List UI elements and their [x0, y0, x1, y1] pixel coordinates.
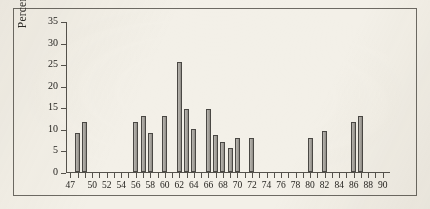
x-axis-tick-label: 64 [189, 180, 199, 190]
x-axis-tick-label: 66 [204, 180, 214, 190]
y-axis-tick-label: 10 [48, 123, 58, 134]
x-axis-tick [179, 173, 180, 178]
x-axis-tick [267, 173, 268, 178]
x-axis-tick-label: 86 [349, 180, 359, 190]
x-axis-tick [143, 173, 144, 178]
x-axis-tick-label: 68 [218, 180, 228, 190]
x-axis-tick [92, 173, 93, 178]
x-axis-tick [172, 173, 173, 178]
x-axis-tick [194, 173, 195, 178]
bar [162, 116, 167, 172]
y-axis-tick: 0 [61, 173, 66, 174]
y-axis-tick: 35 [61, 22, 66, 23]
x-axis-tick [85, 173, 86, 178]
x-axis-tick-label: 90 [378, 180, 388, 190]
x-axis-tick [354, 173, 355, 178]
x-axis-tick [288, 173, 289, 178]
x-axis-tick-label: 80 [305, 180, 315, 190]
y-axis-tick-label: 0 [53, 166, 58, 177]
y-axis-tick: 20 [61, 87, 66, 88]
figure-container: Percentage of policy issues 051015202530… [0, 0, 430, 209]
plot-area: 05101520253035 4750525456586062646668707… [66, 22, 390, 173]
x-axis-tick-label: 58 [146, 180, 156, 190]
x-axis-tick [78, 173, 79, 178]
bar [308, 138, 313, 173]
x-axis-tick [383, 173, 384, 178]
x-axis-tick [281, 173, 282, 178]
y-axis-tick: 25 [61, 65, 66, 66]
x-axis-tick-label: 60 [160, 180, 170, 190]
bar [141, 116, 146, 172]
x-axis-tick-label: 74 [262, 180, 272, 190]
x-axis-tick [121, 173, 122, 178]
bar [249, 138, 254, 173]
x-axis-tick [296, 173, 297, 178]
x-axis-tick [317, 173, 318, 178]
x-axis-tick-label: 54 [116, 180, 126, 190]
x-axis-tick-label: 78 [291, 180, 301, 190]
bar [358, 116, 363, 172]
y-axis-tick-label: 30 [48, 37, 58, 48]
x-axis-tick [99, 173, 100, 178]
x-axis-tick [303, 173, 304, 178]
x-axis-tick [237, 173, 238, 178]
x-axis-tick-label: 56 [131, 180, 141, 190]
x-axis-tick [230, 173, 231, 178]
y-axis-tick: 5 [61, 151, 66, 152]
x-axis-tick-label: 82 [320, 180, 330, 190]
x-axis-tick [245, 173, 246, 178]
x-axis-tick-label: 47 [66, 180, 76, 190]
bar [75, 133, 80, 172]
bar [177, 62, 182, 172]
bar [220, 142, 225, 172]
y-axis-tick-label: 5 [53, 144, 58, 155]
x-axis-tick [259, 173, 260, 178]
x-axis-tick-label: 84 [334, 180, 344, 190]
bar [82, 122, 87, 172]
x-axis-tick [114, 173, 115, 178]
x-axis-tick [158, 173, 159, 178]
x-axis-tick [208, 173, 209, 178]
x-axis-tick [150, 173, 151, 178]
x-axis-tick [107, 173, 108, 178]
x-axis-tick-label: 50 [87, 180, 97, 190]
y-axis-tick-label: 15 [48, 101, 58, 112]
x-axis-tick [201, 173, 202, 178]
x-axis-tick [165, 173, 166, 178]
x-axis-tick [136, 173, 137, 178]
x-axis-tick [346, 173, 347, 178]
x-axis-tick [368, 173, 369, 178]
x-axis-tick-label: 88 [363, 180, 373, 190]
bar [235, 138, 240, 173]
bar [351, 122, 356, 172]
x-axis-tick [325, 173, 326, 178]
bar [148, 133, 153, 172]
y-axis-tick: 15 [61, 108, 66, 109]
y-axis-tick-label: 20 [48, 80, 58, 91]
x-axis-tick [216, 173, 217, 178]
y-axis-tick: 30 [61, 44, 66, 45]
bar [133, 122, 138, 172]
y-axis-tick-label: 35 [48, 15, 58, 26]
y-axis-line [66, 22, 67, 173]
bar [191, 129, 196, 172]
x-axis-tick-label: 52 [102, 180, 112, 190]
bar [228, 148, 233, 172]
bar [322, 131, 327, 172]
bar [213, 135, 218, 172]
bar [206, 109, 211, 172]
x-axis-tick [375, 173, 376, 178]
x-axis-tick [310, 173, 311, 178]
x-axis-tick [70, 173, 71, 178]
x-axis-tick [128, 173, 129, 178]
y-axis-tick: 10 [61, 130, 66, 131]
x-axis-tick-label: 76 [276, 180, 286, 190]
x-axis-tick [223, 173, 224, 178]
x-axis-tick [339, 173, 340, 178]
bar [184, 109, 189, 172]
x-axis-tick [187, 173, 188, 178]
y-axis-tick-label: 25 [48, 58, 58, 69]
x-axis-tick-label: 72 [247, 180, 257, 190]
x-axis-tick [332, 173, 333, 178]
y-axis-title: Percentage of policy issues [16, 0, 32, 38]
